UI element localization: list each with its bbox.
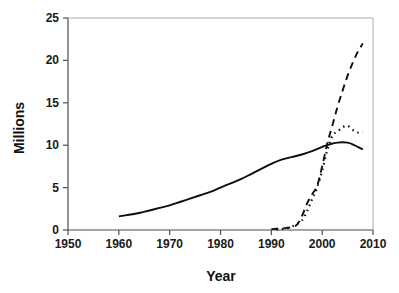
- chart-figure: 1950196019701980199020002010 0510152025 …: [0, 0, 399, 293]
- x-tick-label: 1990: [258, 237, 285, 251]
- series-line-dashed: [271, 43, 363, 229]
- x-tick-label: 1960: [105, 237, 132, 251]
- y-tick-label: 5: [52, 181, 59, 195]
- x-tick-label: 2010: [360, 237, 387, 251]
- y-tick-label: 15: [46, 96, 60, 110]
- tick-mark-group: [63, 18, 373, 235]
- line-chart-canvas: 1950196019701980199020002010 0510152025 …: [0, 0, 399, 293]
- axis-group: [68, 18, 373, 230]
- x-axis-title: Year: [206, 268, 236, 284]
- y-axis-tick-labels: 0510152025: [46, 11, 60, 237]
- y-tick-label: 20: [46, 53, 60, 67]
- x-axis-tick-labels: 1950196019701980199020002010: [55, 237, 387, 251]
- x-tick-label: 1980: [207, 237, 234, 251]
- y-tick-label: 25: [46, 11, 60, 25]
- data-series-group: [119, 43, 363, 229]
- y-tick-label: 0: [52, 223, 59, 237]
- x-tick-label: 2000: [309, 237, 336, 251]
- y-tick-label: 10: [46, 138, 60, 152]
- x-tick-label: 1950: [55, 237, 82, 251]
- x-tick-label: 1970: [156, 237, 183, 251]
- y-axis-title: Millions: [11, 102, 27, 154]
